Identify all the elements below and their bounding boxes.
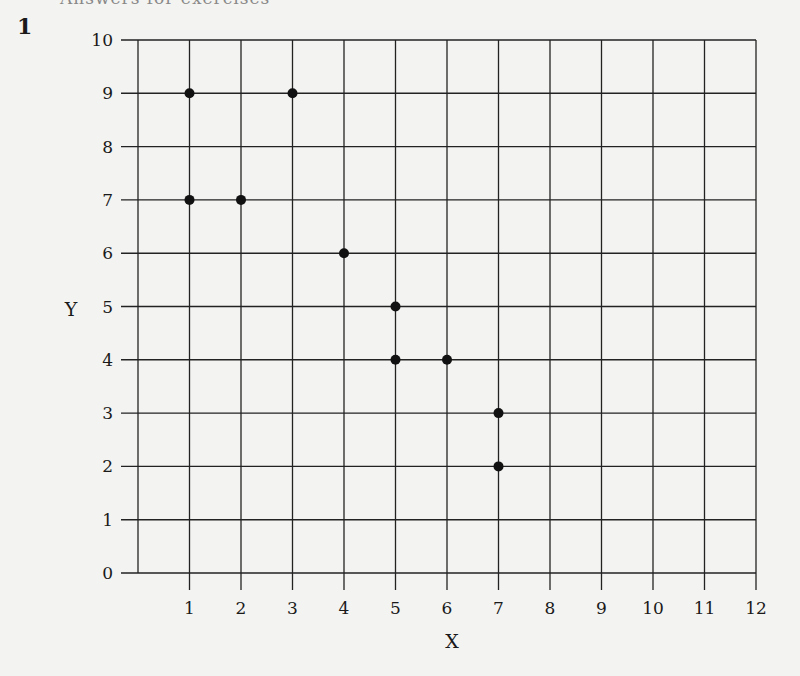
scatter-chart: 012345678910 123456789101112 X Y <box>0 0 800 676</box>
y-tick-label: 0 <box>102 563 113 583</box>
x-tick-label: 11 <box>694 598 716 618</box>
x-tick-label: 7 <box>493 598 504 618</box>
x-tick-label: 4 <box>339 598 350 618</box>
grid-lines <box>121 40 756 590</box>
y-tick-label: 9 <box>102 83 113 103</box>
y-tick-label: 10 <box>91 30 113 50</box>
x-tick-label: 10 <box>642 598 664 618</box>
y-tick-label: 7 <box>102 190 113 210</box>
x-tick-label: 8 <box>545 598 556 618</box>
data-point <box>391 355 401 365</box>
y-tick-label: 6 <box>102 243 113 263</box>
data-point <box>288 88 298 98</box>
x-tick-label: 9 <box>596 598 607 618</box>
x-axis-ticks: 123456789101112 <box>184 598 767 618</box>
y-tick-label: 2 <box>102 456 113 476</box>
y-tick-label: 4 <box>102 350 113 370</box>
y-axis-label: Y <box>64 298 78 320</box>
data-point <box>442 355 452 365</box>
data-point <box>494 461 504 471</box>
data-point <box>391 302 401 312</box>
y-tick-label: 1 <box>102 510 113 530</box>
x-tick-label: 1 <box>184 598 195 618</box>
data-point <box>494 408 504 418</box>
x-tick-label: 3 <box>287 598 298 618</box>
data-point <box>339 248 349 258</box>
x-tick-label: 6 <box>442 598 453 618</box>
x-tick-label: 12 <box>745 598 767 618</box>
y-axis-ticks: 012345678910 <box>91 30 113 583</box>
data-point <box>185 195 195 205</box>
y-tick-label: 3 <box>102 403 113 423</box>
x-tick-label: 5 <box>390 598 401 618</box>
x-tick-label: 2 <box>236 598 247 618</box>
data-point <box>236 195 246 205</box>
x-axis-label: X <box>445 630 459 652</box>
data-point <box>185 88 195 98</box>
y-tick-label: 5 <box>102 297 113 317</box>
y-tick-label: 8 <box>102 137 113 157</box>
